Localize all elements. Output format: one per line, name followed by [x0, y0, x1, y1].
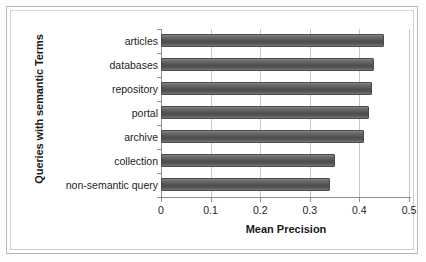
bar-articles[interactable]	[161, 34, 384, 47]
y-tick-label-databases: databases	[43, 60, 158, 71]
chart-figure: Queries with semantic Terms articles dat…	[0, 0, 426, 262]
bar-archive[interactable]	[161, 130, 364, 143]
bar-repository[interactable]	[161, 82, 372, 95]
y-tick-label-repository: repository	[43, 84, 158, 95]
x-tick-label-0.1: 0.1	[191, 204, 231, 216]
x-tick-0.2	[260, 197, 261, 202]
bar-collection[interactable]	[161, 154, 335, 167]
x-tick-0.5	[409, 197, 410, 202]
bar-non-semantic-query[interactable]	[161, 178, 330, 191]
y-tick-label-collection: collection	[43, 156, 158, 167]
y-tick	[157, 29, 161, 30]
y-tick	[157, 149, 161, 150]
x-axis-line	[161, 197, 411, 198]
x-tick-label-0: 0	[141, 204, 181, 216]
x-tick-0.4	[359, 197, 360, 202]
x-axis-title: Mean Precision	[161, 223, 411, 235]
x-tick-label-0.4: 0.4	[339, 204, 379, 216]
bar-portal[interactable]	[161, 106, 369, 119]
chart-plot-border: Queries with semantic Terms articles dat…	[10, 10, 414, 250]
x-tick-label-0.5: 0.5	[389, 204, 426, 216]
plot-inner	[161, 29, 409, 197]
y-tick	[157, 125, 161, 126]
y-tick	[157, 53, 161, 54]
y-axis-tick-labels: articles databases repository portal arc…	[43, 29, 158, 189]
y-tick	[157, 77, 161, 78]
x-tick-label-0.3: 0.3	[290, 204, 330, 216]
y-tick	[157, 101, 161, 102]
y-tick	[157, 197, 161, 198]
y-tick-label-archive: archive	[43, 132, 158, 143]
x-tick-0.1	[211, 197, 212, 202]
y-tick-label-portal: portal	[43, 108, 158, 119]
y-tick-label-articles: articles	[43, 36, 158, 47]
x-tick-0	[161, 197, 162, 202]
x-tick-label-0.2: 0.2	[240, 204, 280, 216]
y-tick	[157, 173, 161, 174]
y-tick-label-non-semantic-query: non-semantic query	[43, 180, 158, 191]
x-tick-0.3	[310, 197, 311, 202]
bar-databases[interactable]	[161, 58, 374, 71]
gridline-0.5	[409, 29, 410, 197]
plot-area	[161, 29, 409, 197]
